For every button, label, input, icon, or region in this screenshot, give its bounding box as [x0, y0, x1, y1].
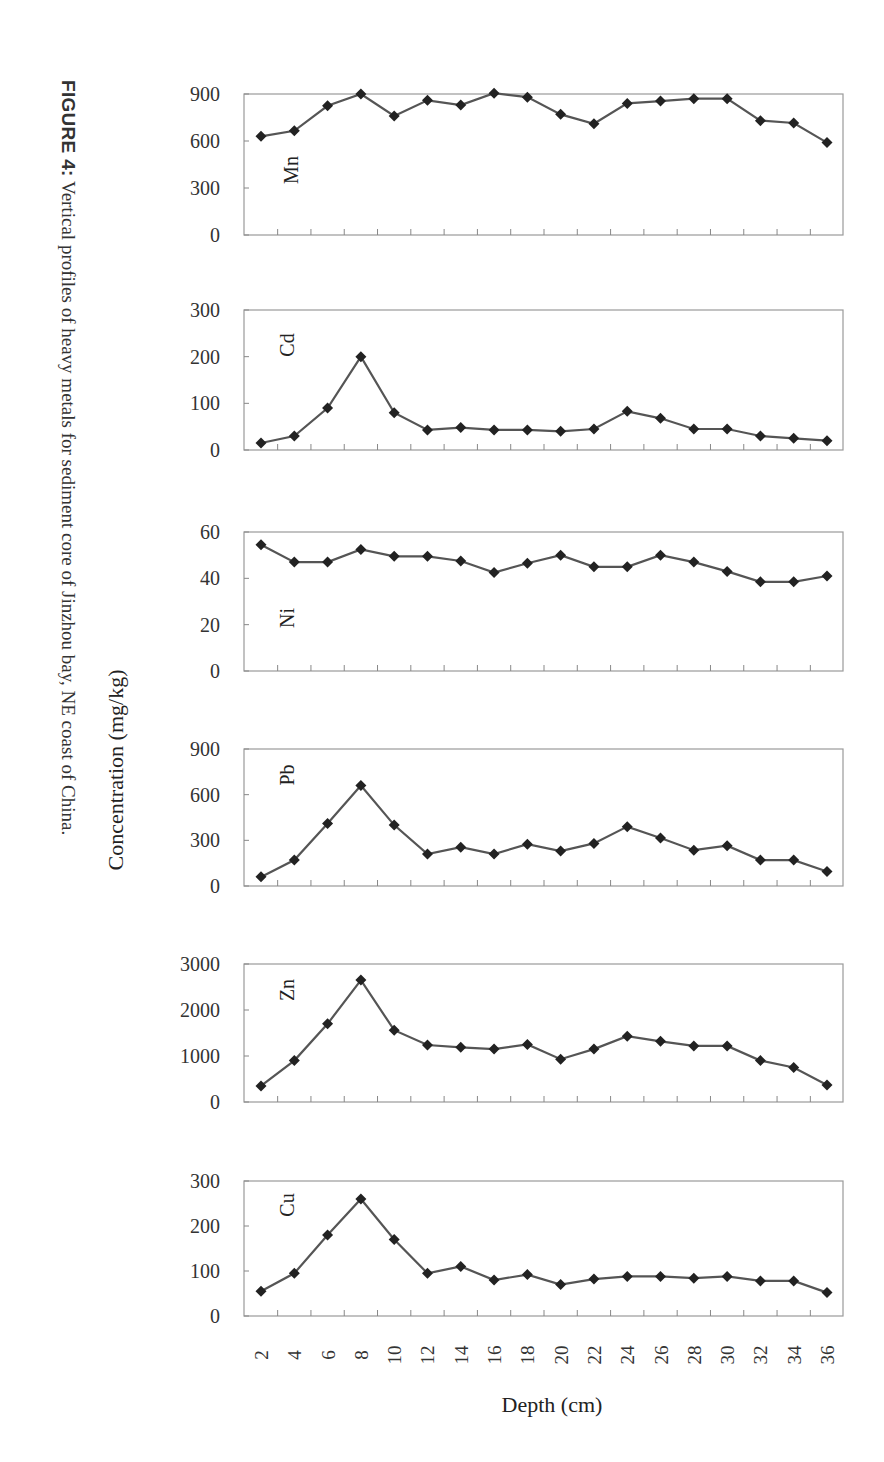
data-point-diamond	[256, 131, 267, 142]
y-tick-label: 0	[210, 875, 220, 897]
y-tick-label: 900	[190, 83, 220, 105]
y-tick-label: 3000	[180, 953, 220, 975]
x-tick-label: 18	[517, 1346, 538, 1365]
data-point-diamond	[256, 438, 267, 449]
data-point-diamond	[588, 838, 599, 849]
y-tick-label: 300	[190, 829, 220, 851]
y-tick-label: 900	[190, 738, 220, 760]
data-point-diamond	[555, 109, 566, 120]
x-tick-label: 26	[651, 1346, 672, 1365]
data-point-diamond	[822, 435, 833, 446]
data-point-diamond	[555, 426, 566, 437]
data-point-diamond	[455, 99, 466, 110]
panel-cd: 0100200300Cd	[190, 299, 843, 461]
x-tick-label: 30	[717, 1346, 738, 1365]
data-point-diamond	[355, 544, 366, 555]
plot-frame	[244, 532, 843, 671]
y-tick-label: 20	[200, 614, 220, 636]
panel-cu: 0100200300Cu	[190, 1170, 843, 1327]
data-point-diamond	[522, 839, 533, 850]
data-point-diamond	[455, 842, 466, 853]
x-tick-label: 28	[684, 1346, 705, 1365]
data-point-diamond	[755, 576, 766, 587]
panel-ni: 0204060Ni	[200, 521, 843, 682]
y-tick-label: 600	[190, 130, 220, 152]
data-point-diamond	[722, 424, 733, 435]
data-point-diamond	[422, 551, 433, 562]
y-tick-label: 60	[200, 521, 220, 543]
data-point-diamond	[822, 1287, 833, 1298]
data-point-diamond	[822, 866, 833, 877]
data-point-diamond	[655, 413, 666, 424]
data-point-diamond	[322, 557, 333, 568]
data-point-diamond	[489, 1275, 500, 1286]
metal-label: Cd	[276, 333, 298, 356]
plot-frame	[244, 1181, 843, 1316]
data-point-diamond	[655, 550, 666, 561]
data-point-diamond	[788, 1062, 799, 1073]
y-tick-label: 100	[190, 1260, 220, 1282]
data-point-diamond	[489, 88, 500, 99]
series-line-cu	[261, 1199, 827, 1293]
x-tick-label: 4	[284, 1350, 305, 1360]
panel-zn: 0100020003000Zn	[180, 953, 843, 1113]
series-line-ni	[261, 545, 827, 582]
data-point-diamond	[655, 96, 666, 107]
panel-mn: 0300600900Mn	[190, 83, 843, 246]
data-point-diamond	[655, 1036, 666, 1047]
data-point-diamond	[422, 424, 433, 435]
y-tick-label: 0	[210, 1305, 220, 1327]
y-tick-label: 0	[210, 224, 220, 246]
y-tick-label: 0	[210, 1091, 220, 1113]
x-tick-label: 24	[617, 1345, 638, 1365]
data-point-diamond	[788, 117, 799, 128]
data-point-diamond	[588, 118, 599, 129]
x-tick-label: 10	[384, 1346, 405, 1365]
data-point-diamond	[788, 576, 799, 587]
data-point-diamond	[455, 422, 466, 433]
series-line-cd	[261, 357, 827, 443]
data-point-diamond	[256, 1286, 267, 1297]
data-point-diamond	[622, 406, 633, 417]
x-tick-label: 20	[551, 1346, 572, 1365]
data-point-diamond	[389, 551, 400, 562]
data-point-diamond	[722, 1040, 733, 1051]
data-point-diamond	[422, 95, 433, 106]
data-point-diamond	[688, 93, 699, 104]
y-tick-label: 1000	[180, 1045, 220, 1067]
data-point-diamond	[489, 424, 500, 435]
data-point-diamond	[555, 845, 566, 856]
metal-label: Pb	[276, 764, 298, 785]
data-point-diamond	[622, 1031, 633, 1042]
plot-frame	[244, 310, 843, 450]
plot-frame	[244, 964, 843, 1102]
y-tick-label: 300	[190, 1170, 220, 1192]
data-point-diamond	[522, 1269, 533, 1280]
data-point-diamond	[655, 1271, 666, 1282]
data-point-diamond	[688, 845, 699, 856]
metal-label: Mn	[280, 156, 302, 184]
data-point-diamond	[355, 89, 366, 100]
metal-label: Cu	[276, 1193, 298, 1216]
data-point-diamond	[522, 1039, 533, 1050]
data-point-diamond	[455, 1042, 466, 1053]
data-point-diamond	[788, 855, 799, 866]
x-tick-label: 34	[784, 1345, 805, 1365]
data-point-diamond	[655, 833, 666, 844]
y-tick-label: 100	[190, 392, 220, 414]
x-tick-label: 36	[817, 1346, 838, 1365]
y-tick-label: 0	[210, 660, 220, 682]
x-tick-label: 32	[750, 1346, 771, 1365]
x-tick-label: 16	[484, 1346, 505, 1365]
series-line-zn	[261, 980, 827, 1086]
data-point-diamond	[755, 855, 766, 866]
y-tick-label: 300	[190, 177, 220, 199]
data-point-diamond	[755, 1055, 766, 1066]
data-point-diamond	[455, 1261, 466, 1272]
data-point-diamond	[555, 1279, 566, 1290]
data-point-diamond	[722, 566, 733, 577]
x-axis-label: Depth (cm)	[502, 1392, 603, 1418]
data-point-diamond	[722, 1271, 733, 1282]
data-point-diamond	[755, 1275, 766, 1286]
y-tick-label: 40	[200, 567, 220, 589]
